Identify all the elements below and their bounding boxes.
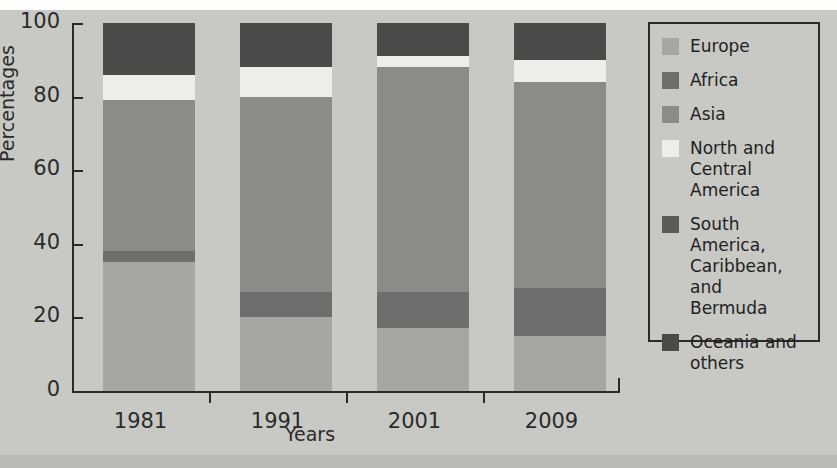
y-tick-mark xyxy=(72,23,83,25)
y-tick-label: 20 xyxy=(33,304,60,326)
legend-swatch-icon xyxy=(662,72,679,89)
legend-swatch-icon xyxy=(662,334,679,351)
y-tick-label: 40 xyxy=(33,231,60,253)
bar-segment-africa xyxy=(377,292,469,329)
stacked-bar-2009 xyxy=(514,23,606,391)
bar-segment-asia xyxy=(103,100,195,251)
bar-segment-oceaniaand xyxy=(514,23,606,60)
bar-segment-asia xyxy=(514,82,606,288)
legend-label: South America, Caribbean, and Bermuda xyxy=(690,214,818,319)
y-tick-label: 60 xyxy=(33,157,60,179)
bar-segment-oceaniaand xyxy=(103,23,195,75)
y-tick-label: 0 xyxy=(47,378,60,400)
bar-segment-africa xyxy=(240,292,332,318)
bar-segment-europe xyxy=(377,328,469,391)
y-tick-label: 100 xyxy=(20,10,60,32)
bar-segment-asia xyxy=(377,67,469,291)
bar-segment-northand xyxy=(103,75,195,101)
x-tick-label-1981: 1981 xyxy=(72,409,209,433)
y-axis-line xyxy=(72,23,74,393)
legend-swatch-icon xyxy=(662,140,679,157)
legend-item-northand[interactable]: North and Central America xyxy=(662,138,818,201)
x-tick-label-1991: 1991 xyxy=(209,409,346,433)
legend-swatch-icon xyxy=(662,216,679,233)
bar-segment-europe xyxy=(103,262,195,391)
y-tick-mark xyxy=(72,391,83,393)
x-tick-label-2009: 2009 xyxy=(483,409,620,433)
y-tick-label: 80 xyxy=(33,84,60,106)
stacked-bar-1981 xyxy=(103,23,195,391)
legend-swatch-icon xyxy=(662,106,679,123)
y-tick-mark xyxy=(72,244,83,246)
x-tick-mark xyxy=(346,391,348,403)
page-top-margin xyxy=(0,0,837,10)
bar-segment-northand xyxy=(377,56,469,67)
bar-segment-oceaniaand xyxy=(240,23,332,67)
bar-segment-africa xyxy=(514,288,606,336)
stacked-bar-1991 xyxy=(240,23,332,391)
plot-area: 020406080100 1981199120012009 xyxy=(72,23,620,393)
chart-legend: EuropeAfricaAsiaNorth and Central Americ… xyxy=(648,22,820,342)
legend-item-africa[interactable]: Africa xyxy=(662,70,818,91)
legend-label: Asia xyxy=(690,104,726,125)
legend-item-asia[interactable]: Asia xyxy=(662,104,818,125)
legend-item-southamerica[interactable]: South America, Caribbean, and Bermuda xyxy=(662,214,818,319)
x-axis-right-cap xyxy=(618,378,620,393)
legend-item-oceaniaand[interactable]: Oceania and others xyxy=(662,332,818,374)
stacked-bar-2001 xyxy=(377,23,469,391)
bar-segment-oceaniaand xyxy=(377,23,469,56)
bar-segment-europe xyxy=(514,336,606,391)
legend-label: North and Central America xyxy=(690,138,818,201)
legend-item-europe[interactable]: Europe xyxy=(662,36,818,57)
x-tick-label-2001: 2001 xyxy=(346,409,483,433)
bar-segment-asia xyxy=(240,97,332,292)
page-bottom-margin xyxy=(0,455,837,468)
legend-label: Africa xyxy=(690,70,739,91)
bar-segment-europe xyxy=(240,317,332,391)
x-tick-mark xyxy=(209,391,211,403)
x-tick-mark xyxy=(483,391,485,403)
y-axis-title: Percentages xyxy=(0,128,18,162)
legend-label: Oceania and others xyxy=(690,332,797,374)
bar-segment-africa xyxy=(103,251,195,262)
y-tick-mark xyxy=(72,97,83,99)
bar-segment-northand xyxy=(240,67,332,96)
legend-swatch-icon xyxy=(662,38,679,55)
bar-segment-northand xyxy=(514,60,606,82)
legend-label: Europe xyxy=(690,36,750,57)
y-tick-mark xyxy=(72,170,83,172)
chart-figure: Percentages Years 020406080100 198119912… xyxy=(0,0,837,468)
y-tick-mark xyxy=(72,317,83,319)
